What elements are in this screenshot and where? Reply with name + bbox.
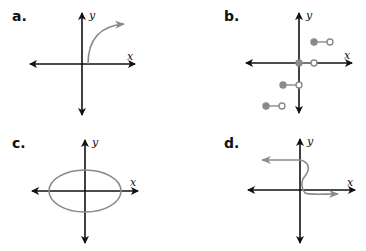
panel-b-y-label: y	[305, 9, 313, 22]
panel-a-curve	[88, 24, 124, 64]
panel-a-x-label: x	[127, 50, 134, 63]
panel-b-graph: y x	[246, 9, 352, 113]
panel-c-y-label: y	[91, 136, 99, 149]
panel-c-graph: y x	[32, 136, 138, 243]
panel-b-x-label: x	[344, 49, 351, 62]
panel-b-steps	[263, 39, 333, 109]
panel-d-s-curve	[300, 160, 338, 194]
panel-a-graph: y x	[30, 9, 135, 115]
graphs-canvas: y x y x y x	[0, 0, 366, 251]
panel-a-y-label: y	[88, 9, 96, 22]
panel-d-y-label: y	[306, 135, 314, 148]
panel-c-x-label: x	[130, 176, 137, 189]
panel-d-graph: y x	[248, 135, 355, 243]
panel-d-x-label: x	[347, 176, 354, 189]
